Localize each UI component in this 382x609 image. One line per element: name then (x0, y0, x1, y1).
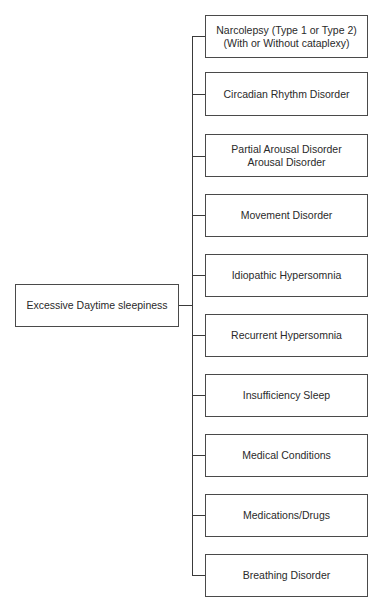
child-label: Partial Arousal Disorder Arousal Disorde… (231, 143, 341, 168)
child-node-breathing-disorder: Breathing Disorder (205, 554, 368, 597)
branch-connector (192, 575, 205, 576)
child-label: Medical Conditions (242, 449, 331, 462)
child-label: Recurrent Hypersomnia (231, 329, 342, 342)
branch-connector (192, 335, 205, 336)
branch-connector (192, 156, 205, 157)
branch-connector (192, 275, 205, 276)
child-node-narcolepsy: Narcolepsy (Type 1 or Type 2) (With or W… (205, 15, 368, 58)
child-node-movement-disorder: Movement Disorder (205, 194, 368, 237)
child-label: Circadian Rhythm Disorder (223, 88, 349, 101)
child-label: Idiopathic Hypersomnia (232, 269, 342, 282)
child-label: Narcolepsy (Type 1 or Type 2) (With or W… (216, 24, 356, 49)
root-node: Excessive Daytime sleepiness (15, 284, 179, 327)
branch-connector (192, 215, 205, 216)
child-node-recurrent-hypersomnia: Recurrent Hypersomnia (205, 314, 368, 357)
child-label: Insufficiency Sleep (243, 389, 330, 402)
branch-connector (192, 36, 205, 37)
child-node-idiopathic-hypersomnia: Idiopathic Hypersomnia (205, 254, 368, 297)
trunk-line (192, 36, 193, 576)
branch-connector (192, 455, 205, 456)
child-label: Breathing Disorder (243, 569, 331, 582)
child-label: Medications/Drugs (243, 509, 330, 522)
branch-connector (192, 515, 205, 516)
branch-connector (192, 395, 205, 396)
root-connector (179, 305, 192, 306)
root-label: Excessive Daytime sleepiness (26, 299, 167, 312)
child-node-insufficiency-sleep: Insufficiency Sleep (205, 374, 368, 417)
child-label: Movement Disorder (241, 209, 333, 222)
child-node-circadian-rhythm: Circadian Rhythm Disorder (205, 72, 368, 116)
child-node-medical-conditions: Medical Conditions (205, 434, 368, 477)
child-node-arousal-disorder: Partial Arousal Disorder Arousal Disorde… (205, 134, 368, 177)
child-node-medications-drugs: Medications/Drugs (205, 494, 368, 537)
branch-connector (192, 94, 205, 95)
